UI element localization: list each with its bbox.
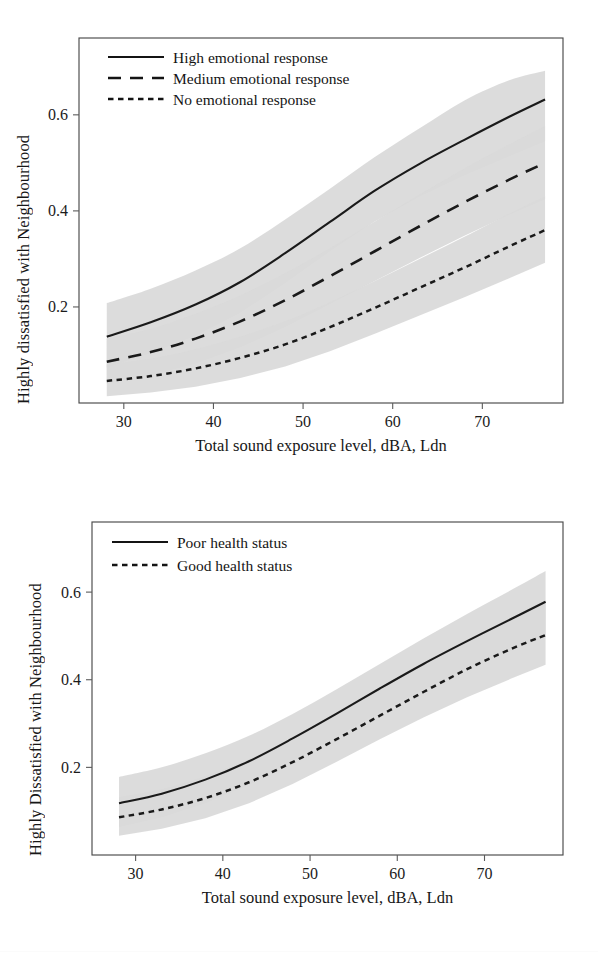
x-tick-label: 40 bbox=[215, 865, 231, 882]
y-tick-label: 0.6 bbox=[61, 584, 81, 601]
x-tick-label: 30 bbox=[128, 865, 144, 882]
x-tick-label: 40 bbox=[205, 413, 221, 430]
legend-label: Good health status bbox=[177, 557, 292, 574]
y-axis-label-bottom: Highly Dissatisfied with Neighbourhood bbox=[26, 522, 46, 856]
y-tick-label: 0.4 bbox=[48, 202, 68, 219]
x-tick-label: 60 bbox=[389, 865, 405, 882]
chart-canvas-top: 30405060700.20.40.6High emotional respon… bbox=[0, 0, 598, 478]
legend-label: Poor health status bbox=[177, 534, 287, 551]
x-axis-label-bottom: Total sound exposure level, dBA, Ldn bbox=[92, 888, 563, 908]
y-tick-label: 0.6 bbox=[48, 106, 68, 123]
scan-artifact bbox=[0, 951, 598, 952]
x-axis-label-top: Total sound exposure level, dBA, Ldn bbox=[79, 436, 563, 456]
y-tick-label: 0.2 bbox=[48, 298, 68, 315]
chart-panel-top: 30405060700.20.40.6High emotional respon… bbox=[0, 0, 598, 478]
x-tick-label: 30 bbox=[116, 413, 132, 430]
x-tick-label: 50 bbox=[295, 413, 311, 430]
y-tick-label: 0.4 bbox=[61, 671, 81, 688]
x-tick-label: 60 bbox=[385, 413, 401, 430]
legend-label: No emotional response bbox=[173, 91, 316, 108]
x-tick-label: 50 bbox=[302, 865, 318, 882]
y-tick-label: 0.2 bbox=[61, 759, 81, 776]
chart-canvas-bottom: 30405060700.20.40.6Poor health statusGoo… bbox=[0, 478, 598, 956]
legend-label: High emotional response bbox=[173, 49, 328, 66]
chart-panel-bottom: 30405060700.20.40.6Poor health statusGoo… bbox=[0, 478, 598, 956]
y-axis-label-top: Highly dissatisfied with Neighbourhood bbox=[14, 38, 34, 404]
x-tick-label: 70 bbox=[477, 865, 493, 882]
figure-two-panel-chart: 30405060700.20.40.6High emotional respon… bbox=[0, 0, 598, 956]
x-tick-label: 70 bbox=[474, 413, 490, 430]
legend-label: Medium emotional response bbox=[173, 70, 350, 87]
